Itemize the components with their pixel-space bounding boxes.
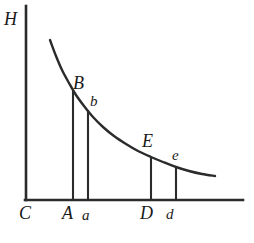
curve-point-label-E: E (142, 132, 153, 150)
demand-curve (50, 40, 215, 176)
curve-point-label-e: e (172, 148, 179, 163)
figure-container: H C A a D d B b E e (0, 0, 254, 243)
curve-point-label-b: b (90, 94, 98, 109)
origin-label-c: C (19, 204, 31, 222)
axes-group (25, 6, 243, 200)
x-tick-label-d: d (166, 207, 174, 222)
x-tick-label-D: D (140, 204, 153, 222)
plot-svg (0, 0, 254, 243)
x-tick-label-a: a (82, 208, 90, 223)
y-axis-label: H (4, 10, 17, 28)
drop-lines-group (73, 91, 176, 200)
x-tick-label-A: A (62, 204, 73, 222)
curve-point-label-B: B (73, 74, 84, 92)
